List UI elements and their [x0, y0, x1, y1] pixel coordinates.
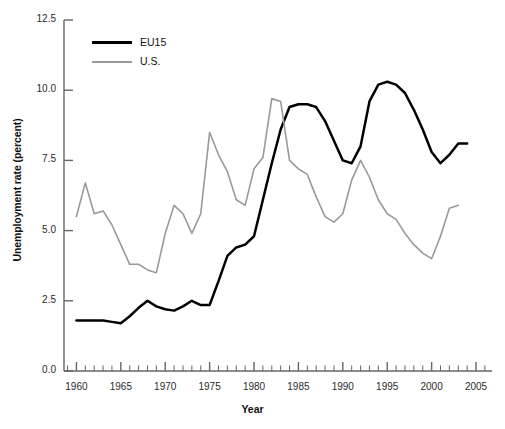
x-tick-label: 1995 — [367, 381, 407, 392]
x-tick-label: 1975 — [190, 381, 230, 392]
y-tick-label: 7.5 — [26, 153, 56, 164]
y-tick-label: 12.5 — [26, 13, 56, 24]
legend-line-swatch-eu15 — [92, 41, 132, 44]
chart-figure: Unemployment rate (percent) Year 0.02.55… — [0, 0, 505, 429]
y-axis-title-text: Unemployment rate (percent) — [11, 118, 23, 261]
legend-label-eu15: EU15 — [140, 37, 166, 48]
x-tick-label: 1990 — [323, 381, 363, 392]
x-tick-label: 2005 — [456, 381, 496, 392]
series-line-eu15 — [76, 82, 467, 323]
x-tick-label: 1965 — [101, 381, 141, 392]
legend-item-eu15: EU15 — [92, 33, 212, 52]
x-tick-label: 2000 — [412, 381, 452, 392]
y-tick-label: 5.0 — [26, 224, 56, 235]
legend-label-us: U.S. — [140, 56, 160, 67]
y-tick-label: 0.0 — [26, 364, 56, 375]
y-tick-label: 2.5 — [26, 294, 56, 305]
legend-line-swatch-us — [92, 61, 132, 63]
legend-item-us: U.S. — [92, 52, 212, 71]
x-tick-label: 1985 — [278, 381, 318, 392]
line-chart-plot-area — [0, 0, 505, 429]
y-tick-label: 10.0 — [26, 83, 56, 94]
series-lines — [76, 82, 467, 323]
x-axis-title: Year — [0, 403, 505, 415]
x-tick-label: 1980 — [234, 381, 274, 392]
x-tick-label: 1960 — [56, 381, 96, 392]
chart-legend: EU15 U.S. — [92, 33, 212, 71]
x-tick-label: 1970 — [145, 381, 185, 392]
y-axis-title: Unemployment rate (percent) — [0, 0, 34, 380]
